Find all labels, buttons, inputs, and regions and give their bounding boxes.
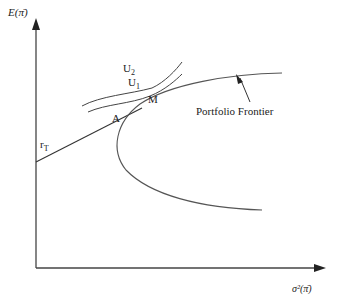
portfolio-diagram: E(π̄) σ²(π̄) rT A M U2 U1 Portfolio Fron… [0, 0, 339, 305]
u1-label: U1 [128, 76, 140, 91]
capital-market-line [36, 108, 142, 162]
y-axis-label: E(π̄) [7, 6, 28, 19]
x-axis-label: σ²(π̄) [292, 283, 312, 295]
x-axis-arrow-icon [314, 264, 326, 272]
y-axis-arrow-icon [32, 18, 40, 30]
u2-label: U2 [123, 62, 135, 77]
portfolio-frontier-curve [117, 73, 282, 210]
point-a-label: A [112, 112, 120, 124]
risk-free-label: rT [40, 138, 49, 153]
point-m-label: M [148, 93, 158, 105]
portfolio-frontier-label: Portfolio Frontier [196, 105, 274, 117]
